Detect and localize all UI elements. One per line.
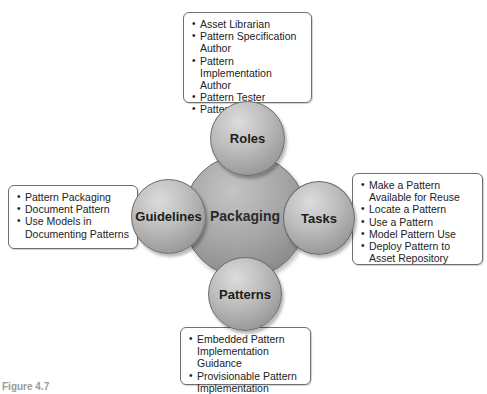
- list-item: Use a Pattern: [361, 216, 476, 228]
- list-item: Document Pattern: [17, 203, 131, 215]
- list-item: Embedded Pattern Implementation Guidance: [189, 333, 304, 370]
- list-item: Locate a Pattern: [361, 203, 476, 215]
- list-item: Model Pattern Use: [361, 228, 476, 240]
- list-item: Use Models in Documenting Patterns: [17, 215, 131, 239]
- patterns-list: Embedded Pattern Implementation Guidance…: [189, 333, 304, 394]
- patterns-circle: Patterns: [208, 257, 282, 331]
- guidelines-list: Pattern Packaging Document Pattern Use M…: [17, 191, 131, 240]
- list-item: Pattern Implementation Author: [192, 55, 305, 92]
- roles-box: Asset Librarian Pattern Specification Au…: [183, 12, 312, 103]
- guidelines-circle: Guidelines: [131, 179, 206, 254]
- tasks-box: Make a Pattern Available for Reuse Locat…: [352, 173, 483, 265]
- guidelines-label: Guidelines: [135, 209, 201, 224]
- list-item: Make a Pattern Available for Reuse: [361, 179, 476, 203]
- list-item: Provisionable Pattern Implementation: [189, 370, 304, 394]
- tasks-circle: Tasks: [283, 181, 355, 255]
- tasks-label: Tasks: [301, 211, 337, 226]
- list-item: Deploy Pattern to Asset Repository: [361, 240, 476, 264]
- patterns-label: Patterns: [219, 287, 271, 302]
- list-item: Asset Librarian: [192, 18, 305, 30]
- roles-label: Roles: [230, 131, 265, 146]
- roles-circle: Roles: [210, 101, 285, 176]
- guidelines-box: Pattern Packaging Document Pattern Use M…: [8, 185, 138, 249]
- list-item: Pattern Packaging: [17, 191, 131, 203]
- list-item: Pattern Specification Author: [192, 30, 305, 54]
- patterns-box: Embedded Pattern Implementation Guidance…: [180, 327, 311, 385]
- center-label: Packaging: [210, 208, 280, 224]
- tasks-list: Make a Pattern Available for Reuse Locat…: [361, 179, 476, 264]
- figure-caption: Figure 4.7: [2, 381, 49, 392]
